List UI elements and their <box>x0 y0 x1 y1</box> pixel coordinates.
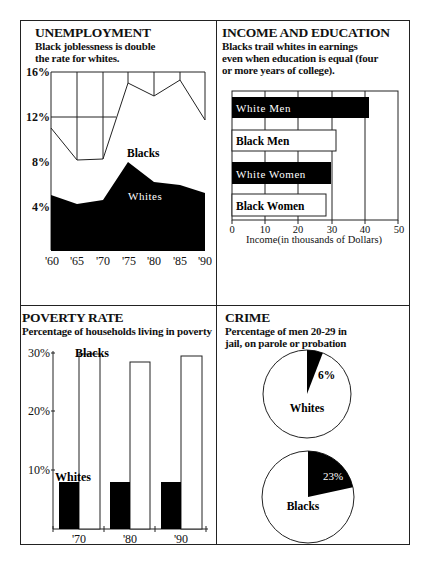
bar-whites-90 <box>161 482 181 529</box>
poverty-whites-label: Whites <box>55 470 91 484</box>
x-tick-60: '60 <box>45 254 59 268</box>
y-tick-30: 30% <box>28 346 50 360</box>
pie-whites: 6% Whites <box>263 350 351 438</box>
whites-annotation: Whites <box>128 190 162 202</box>
poverty-y-axis: 30% 20% 10% <box>28 346 50 477</box>
label-white-women: White Women <box>236 168 306 180</box>
crime-chart: 6% Whites 23% Blacks <box>262 350 354 543</box>
x-tick-80: '80 <box>147 254 161 268</box>
x-tick-70: '70 <box>96 254 110 268</box>
poverty-chart: Blacks Whites 30% 20% 10% '70 '80 '90 <box>28 346 208 546</box>
x-tick-70: '70 <box>72 532 86 546</box>
whites-pct-label: 6% <box>318 369 335 381</box>
label-black-women: Black Women <box>236 200 305 212</box>
x-tick-80: '80 <box>123 532 137 546</box>
whites-pie-label: Whites <box>290 402 325 414</box>
x-tick-90: '90 <box>174 532 188 546</box>
y-tick-10: 10% <box>28 463 50 477</box>
bar-blacks-90 <box>181 356 202 529</box>
y-tick-4: 4% <box>32 200 50 214</box>
y-tick-20: 20% <box>28 404 50 418</box>
blacks-pie-label: Blacks <box>287 500 320 512</box>
x-tick-50: 50 <box>394 224 405 235</box>
poverty-x-axis: '70 '80 '90 <box>72 532 188 546</box>
unemployment-y-axis: 16% 12% 8% 4% <box>26 65 50 214</box>
y-tick-8: 8% <box>32 155 50 169</box>
x-tick-75: '75 <box>122 254 136 268</box>
y-tick-16: 16% <box>26 65 50 79</box>
x-tick-90: '90 <box>198 254 212 268</box>
x-tick-65: '65 <box>70 254 84 268</box>
bar-whites-70 <box>59 482 79 529</box>
blacks-annotation: Blacks <box>127 147 160 159</box>
charts-canvas: Blacks Whites 16% 12% 8% 4% '60 '65 '70 … <box>0 0 431 569</box>
poverty-blacks-label: Blacks <box>75 346 109 360</box>
y-tick-12: 12% <box>26 110 50 124</box>
blacks-pct-label: 23% <box>323 470 343 482</box>
bar-blacks-70 <box>79 354 100 529</box>
label-black-men: Black Men <box>236 135 290 147</box>
x-tick-0: 0 <box>229 224 234 235</box>
income-x-label: Income(in thousands of Dollars) <box>246 234 383 246</box>
whites-area <box>51 162 205 251</box>
label-white-men: White Men <box>236 102 291 114</box>
unemployment-chart: Blacks Whites 16% 12% 8% 4% '60 '65 '70 … <box>26 65 212 268</box>
bar-whites-80 <box>110 482 130 529</box>
unemployment-x-axis: '60 '65 '70 '75 '80 '85 '90 <box>45 254 212 268</box>
bar-blacks-80 <box>130 362 150 529</box>
income-chart: White Men Black Men White Women Black Wo… <box>229 91 404 246</box>
pie-blacks: 23% Blacks <box>262 451 354 543</box>
x-tick-85: '85 <box>173 254 187 268</box>
